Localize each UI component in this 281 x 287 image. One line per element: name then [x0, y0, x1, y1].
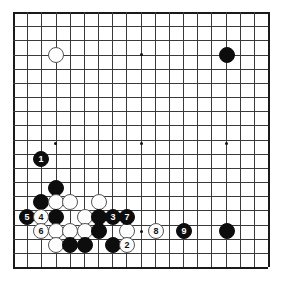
go-diagram: 154376892 — [0, 0, 281, 287]
move-number-label: 6 — [38, 226, 43, 235]
move-number-label: 5 — [24, 212, 29, 221]
stone-black[interactable] — [77, 237, 93, 253]
stone-black[interactable] — [219, 47, 235, 63]
grid-line-horizontal — [13, 253, 268, 254]
go-board[interactable]: 154376892 — [0, 0, 281, 287]
stone-black[interactable] — [33, 194, 49, 210]
stone-white[interactable] — [62, 194, 78, 210]
move-number-label: 2 — [124, 240, 129, 249]
stone-white[interactable] — [91, 194, 107, 210]
grid-line-vertical — [240, 12, 241, 267]
grid-line-horizontal — [13, 267, 268, 269]
star-point — [225, 142, 228, 145]
grid-line-vertical — [254, 12, 255, 267]
move-number-label: 7 — [124, 212, 129, 221]
star-point — [140, 142, 143, 145]
star-point — [140, 230, 143, 233]
stone-white[interactable] — [48, 47, 64, 63]
star-point — [140, 53, 143, 56]
stone-white-move-6[interactable]: 6 — [33, 223, 49, 239]
grid-line-vertical — [197, 12, 198, 267]
grid-line-horizontal — [13, 168, 268, 169]
grid-line-vertical — [141, 12, 142, 267]
stone-black-move-1[interactable]: 1 — [33, 151, 49, 167]
move-number-label: 1 — [38, 154, 43, 163]
stone-black-move-9[interactable]: 9 — [176, 223, 192, 239]
stone-white-move-8[interactable]: 8 — [148, 223, 164, 239]
stone-black[interactable] — [62, 237, 78, 253]
stone-white-move-2[interactable]: 2 — [119, 237, 135, 253]
grid-line-vertical — [169, 12, 170, 267]
move-number-label: 4 — [38, 212, 43, 221]
grid-line-vertical — [211, 12, 212, 267]
grid-line-vertical — [268, 12, 270, 267]
grid-line-horizontal — [13, 154, 268, 155]
stone-black-move-7[interactable]: 7 — [119, 209, 135, 225]
move-number-label: 8 — [153, 226, 158, 235]
star-point — [54, 142, 57, 145]
stone-black[interactable] — [219, 223, 235, 239]
stone-black[interactable] — [91, 223, 107, 239]
move-number-label: 9 — [181, 226, 186, 235]
move-number-label: 3 — [110, 212, 115, 221]
